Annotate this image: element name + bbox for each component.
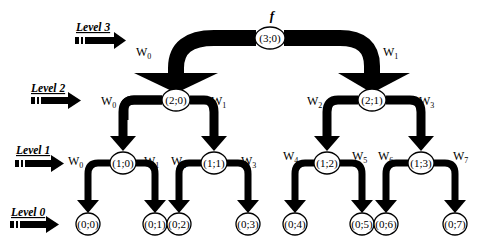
weight-label-w6-l1: W6 [378, 149, 393, 165]
level-2-label: Level 2 [30, 82, 65, 94]
node-label: (1;2) [316, 157, 338, 170]
root-function-label: f [270, 8, 276, 23]
weight-label-w1-l1: W1 [144, 154, 159, 170]
node-label: (0;4) [284, 218, 306, 231]
node-label: (1;1) [203, 157, 225, 170]
node-0-4: (0;4) [283, 213, 307, 235]
node-label: (0;5) [351, 218, 373, 231]
level-0-label: Level 0 [10, 206, 45, 218]
node-1-1: (1;1) [201, 152, 227, 174]
node-label: (0;3) [237, 218, 259, 231]
level-0-arrow-icon [10, 216, 59, 233]
node-label: (1;0) [112, 157, 134, 170]
level-1-label: Level 1 [15, 144, 50, 156]
weight-label-w0-l1: W0 [68, 154, 83, 170]
weight-label-w1-l3: W1 [383, 45, 398, 61]
node-0-5: (0;5) [350, 213, 374, 235]
node-3-0: (3;0) [255, 27, 285, 49]
weight-label-w2-l1: W2 [171, 154, 186, 170]
level1-to-level0 [77, 163, 466, 213]
node-label: (0;0) [77, 218, 99, 231]
weight-label-w3-l2: W3 [419, 94, 434, 110]
node-label: (0;7) [444, 218, 466, 231]
node-0-0: (0;0) [76, 213, 100, 235]
node-0-7: (0;7) [443, 213, 467, 235]
node-label: (2;0) [165, 94, 187, 107]
node-0-1: (0;1) [143, 213, 167, 235]
node-label: (2;1) [361, 94, 383, 107]
level-1-arrow-icon [15, 155, 64, 172]
weight-label-w0-l2: W0 [101, 94, 116, 110]
level-2-arrow-icon [31, 92, 81, 109]
node-1-3: (1;3) [408, 152, 434, 174]
node-label: (0;2) [168, 218, 190, 231]
node-1-0: (1;0) [110, 152, 136, 174]
node-2-1: (2;1) [358, 89, 386, 111]
hooks [124, 100, 162, 138]
node-1-2: (1;2) [314, 152, 340, 174]
weight-label-w3-l1: W3 [241, 154, 256, 170]
weight-label-w1-l2: W1 [211, 94, 226, 110]
node-label: (0;1) [144, 218, 166, 231]
level-3-arrow-icon [75, 32, 126, 49]
node-0-2: (0;2) [167, 213, 191, 235]
wavelet-tree-diagram: Level 3 Level 2 Level 1 Level 0 [0, 0, 485, 252]
weight-label-w7-l1: W7 [453, 149, 468, 165]
node-label: (3;0) [259, 32, 281, 45]
node-label: (0;6) [375, 218, 397, 231]
node-0-6: (0;6) [374, 213, 398, 235]
weight-label-w2-l2: W2 [307, 94, 322, 110]
weight-label-w5-l1: W5 [352, 149, 367, 165]
weight-label-w0-l3: W0 [136, 45, 151, 61]
weight-label-w4-l1: W4 [283, 149, 298, 165]
node-0-3: (0;3) [236, 213, 260, 235]
node-label: (1;3) [410, 157, 432, 170]
node-2-0: (2;0) [162, 89, 190, 111]
level-3-label: Level 3 [75, 21, 110, 33]
